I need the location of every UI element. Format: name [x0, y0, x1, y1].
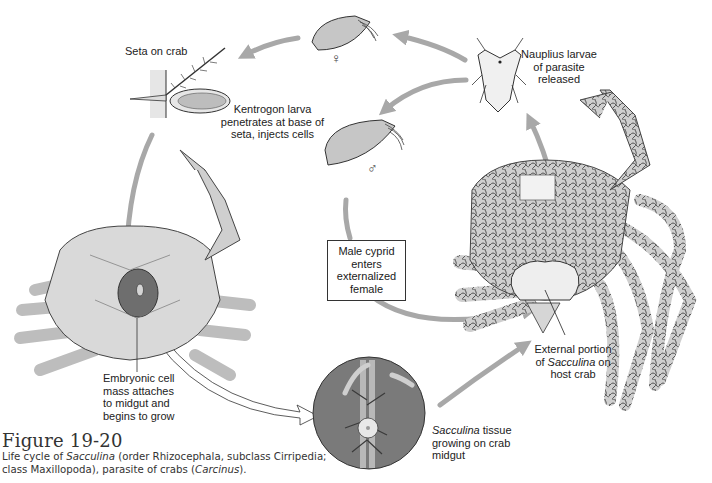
- label-external-line1: External portion: [527, 343, 619, 356]
- label-embryonic-line2: mass attaches: [103, 385, 175, 398]
- figure-caption: Life cycle of Sacculina (order Rhizoceph…: [2, 450, 332, 476]
- arrow-female-to-seta: [245, 38, 298, 55]
- label-embryonic-line1: Embryonic cell: [103, 372, 175, 385]
- label-external-pre: of: [535, 356, 547, 368]
- label-embryonic-line4: begins to grow: [103, 410, 175, 423]
- caption-part: ).: [239, 464, 246, 475]
- label-tissue-genus: Sacculina: [432, 424, 480, 436]
- label-male-cyprid-line4: female: [328, 283, 405, 296]
- label-nauplius-line1: Nauplius larvae: [520, 48, 598, 61]
- sacculina-life-cycle-diagram: Seta on crab Kentrogon larva penetrates …: [0, 0, 712, 483]
- label-seta: Seta on crab: [125, 45, 187, 58]
- label-tissue-line1: Sacculina tissue: [432, 424, 512, 437]
- label-tissue-rest: tissue: [480, 424, 512, 436]
- label-external-line2: of Sacculina on: [527, 356, 619, 369]
- male-symbol: ♂: [367, 160, 378, 176]
- label-embryonic-line3: to midgut and: [103, 397, 175, 410]
- label-male-cyprid-line2: enters: [328, 258, 405, 271]
- label-kentrogon-line2: penetrates at base of: [220, 116, 325, 129]
- male-cyprid-illustration: [325, 120, 404, 165]
- label-tissue-line3: midgut: [432, 449, 512, 462]
- label-male-cyprid-line3: externalized: [328, 270, 405, 283]
- arrow-nauplius-to-male: [385, 80, 466, 110]
- arrow-male-to-box: [346, 200, 351, 238]
- seta-illustration: [130, 48, 230, 118]
- label-external-post: on: [595, 356, 610, 368]
- caption-part-italic: Carcinus: [195, 464, 239, 475]
- label-tissue: Sacculina tissue growing on crab midgut: [432, 424, 512, 462]
- figure-number: Figure 19-20: [2, 430, 123, 451]
- nauplius-illustration: [472, 38, 526, 112]
- female-cyprid-illustration: [312, 16, 378, 50]
- label-external-line3: host crab: [527, 368, 619, 381]
- caption-part-italic: Sacculina: [66, 451, 115, 462]
- label-tissue-line2: growing on crab: [432, 437, 512, 450]
- label-male-cyprid-line1: Male cyprid: [328, 245, 405, 258]
- label-kentrogon-line3: seta, injects cells: [220, 128, 325, 141]
- label-external-portion: External portion of Sacculina on host cr…: [527, 343, 619, 381]
- label-nauplius: Nauplius larvae of parasite released: [520, 48, 598, 86]
- label-nauplius-line3: released: [520, 73, 598, 86]
- female-symbol: ♀: [331, 50, 342, 66]
- caption-part: Life cycle of: [2, 451, 66, 462]
- label-nauplius-line2: of parasite: [520, 61, 598, 74]
- label-kentrogon-line1: Kentrogon larva: [220, 103, 325, 116]
- label-embryonic: Embryonic cell mass attaches to midgut a…: [103, 372, 175, 422]
- arrow-tissue-to-external: [440, 345, 525, 405]
- label-external-genus: Sacculina: [548, 356, 596, 368]
- label-male-cyprid-box: Male cyprid enters externalized female: [327, 240, 406, 301]
- arrow-nauplius-to-female: [400, 36, 465, 60]
- label-kentrogon: Kentrogon larva penetrates at base of se…: [220, 103, 325, 141]
